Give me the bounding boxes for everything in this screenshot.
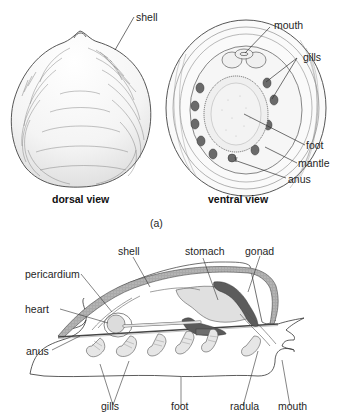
limpet-anatomy-illustration — [0, 0, 339, 414]
label-ventral-gills: gills — [303, 51, 321, 63]
ventral-shell — [166, 20, 326, 196]
caption-ventral-view: ventral view — [208, 193, 268, 205]
label-section-anus: anus — [26, 345, 49, 357]
label-section-radula: radula — [230, 400, 259, 412]
label-section-mouth: mouth — [278, 400, 307, 412]
label-dorsal-shell: shell — [136, 11, 158, 23]
shell-pointer — [115, 17, 134, 50]
caption-dorsal-view: dorsal view — [52, 193, 109, 205]
panel-label-a: (a) — [150, 217, 163, 229]
label-section-heart: heart — [25, 303, 49, 315]
label-ventral-mouth: mouth — [274, 19, 303, 31]
label-section-stomach: stomach — [185, 245, 225, 257]
dorsal-shell — [11, 31, 151, 187]
label-section-pericardium: pericardium — [25, 268, 80, 280]
label-section-shell: shell — [118, 245, 140, 257]
label-section-gills: gills — [101, 400, 119, 412]
label-section-gonad: gonad — [245, 245, 274, 257]
label-section-foot: foot — [171, 400, 189, 412]
label-ventral-anus: anus — [288, 173, 311, 185]
label-ventral-mantle: mantle — [298, 157, 330, 169]
label-ventral-foot: foot — [306, 139, 324, 151]
